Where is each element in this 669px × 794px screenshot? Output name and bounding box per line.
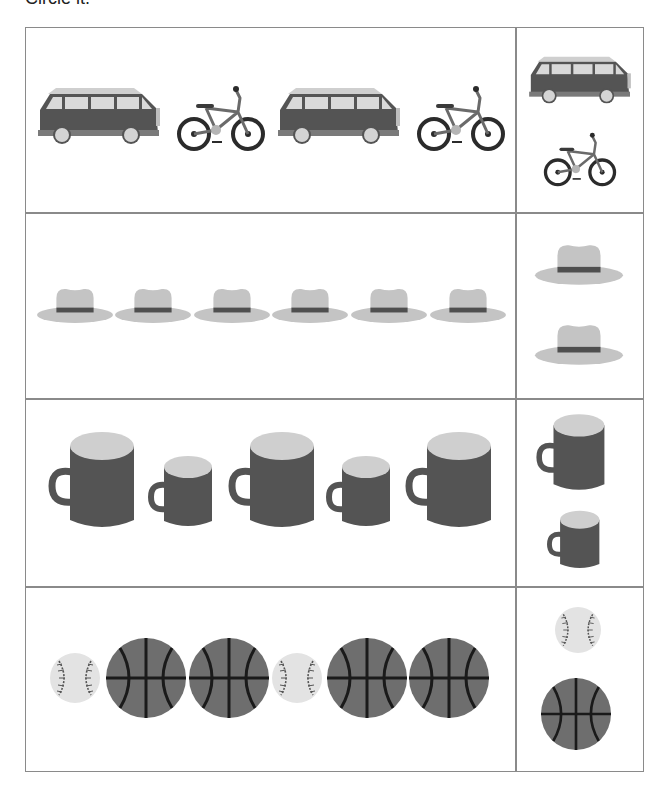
choice-hat-icon[interactable] — [535, 323, 623, 367]
van-icon — [38, 86, 160, 146]
bicycle-icon — [416, 86, 506, 152]
choice-hat-icon[interactable] — [535, 243, 623, 287]
choice-basketball-icon[interactable] — [541, 678, 611, 750]
row-divider — [25, 212, 644, 214]
choice-baseball-icon[interactable] — [555, 607, 601, 653]
big-mug-icon — [48, 432, 136, 532]
hat-icon — [272, 285, 348, 327]
instruction-text: Circle it. — [25, 0, 90, 6]
choice-big-mug-icon[interactable] — [536, 414, 606, 494]
row-divider — [25, 586, 644, 588]
basketball-icon — [106, 638, 186, 718]
hat-icon — [194, 285, 270, 327]
big-mug-icon — [405, 432, 493, 532]
row-divider — [25, 398, 644, 400]
basketball-icon — [327, 638, 407, 718]
van-icon — [278, 86, 400, 146]
small-mug-icon — [148, 455, 214, 531]
basketball-icon — [409, 638, 489, 718]
big-mug-icon — [228, 432, 316, 532]
small-mug-icon — [326, 455, 392, 531]
hat-icon — [115, 285, 191, 327]
baseball-icon — [272, 653, 322, 703]
baseball-icon — [50, 653, 100, 703]
column-divider — [515, 27, 517, 772]
basketball-icon — [189, 638, 269, 718]
hat-icon — [37, 285, 113, 327]
hat-icon — [351, 285, 427, 327]
bicycle-icon — [176, 86, 266, 152]
choice-van-icon[interactable] — [529, 55, 631, 105]
choice-bicycle-icon[interactable] — [543, 132, 617, 188]
choice-small-mug-icon[interactable] — [547, 509, 601, 573]
hat-icon — [430, 285, 506, 327]
